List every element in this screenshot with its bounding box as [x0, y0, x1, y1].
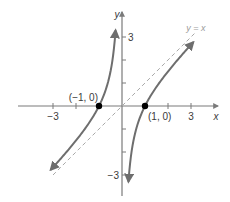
x-axis-label: x — [213, 111, 220, 122]
y-tick-label: −3 — [108, 170, 120, 181]
intercept-point — [96, 103, 102, 109]
asymptote-line — [53, 32, 196, 175]
point-label: (1, 0) — [148, 111, 171, 122]
y-axis-label: y — [114, 9, 121, 20]
x-tick-label: 3 — [188, 111, 194, 122]
x-tick-label: −3 — [47, 111, 59, 122]
asymptote-label: y = x — [185, 23, 206, 33]
intercept-point — [142, 103, 148, 109]
function-graph: −333−3(−1, 0)(1, 0)xyy = x — [0, 0, 230, 202]
point-label: (−1, 0) — [69, 92, 98, 103]
y-tick-label: 3 — [128, 32, 134, 43]
